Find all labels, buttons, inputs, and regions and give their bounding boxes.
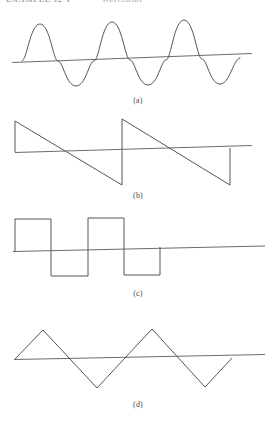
waveform-panel-square xyxy=(0,210,276,286)
waveform-panel-triangle xyxy=(0,318,276,398)
waveform-panel-sine xyxy=(0,16,276,94)
sine-wave-figure xyxy=(0,16,276,94)
figure-label-a: (a) xyxy=(0,96,276,105)
waveform-panel-sawtooth xyxy=(0,112,276,190)
sawtooth-wave-figure xyxy=(0,112,276,190)
page-header: EXAMPLE 12-1 Waveforms xyxy=(0,0,276,7)
square-wave-figure xyxy=(0,210,276,286)
figure-label-b: (b) xyxy=(0,191,276,200)
page-header-title: EXAMPLE 12-1 xyxy=(6,0,71,4)
page-header-text: EXAMPLE 12-1 Waveforms xyxy=(6,0,142,4)
sine-wave-path xyxy=(22,20,240,86)
square-wave-path xyxy=(15,218,160,276)
triangle-wave-figure xyxy=(0,318,276,398)
axis-line xyxy=(14,355,265,360)
figure-label-c: (c) xyxy=(0,289,276,298)
axis-line xyxy=(15,146,252,153)
figure-page: EXAMPLE 12-1 Waveforms (a) (b) xyxy=(0,0,276,422)
figure-label-d: (d) xyxy=(0,400,276,409)
page-header-subtitle: Waveforms xyxy=(102,0,142,4)
